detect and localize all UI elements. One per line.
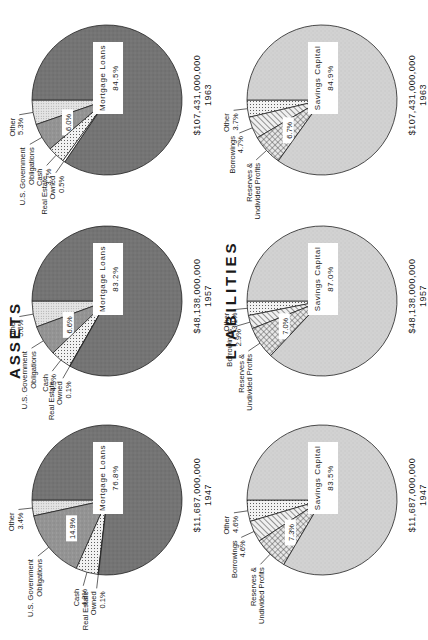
- callout-line: [32, 341, 44, 348]
- main-slice-value: 83.5%: [326, 465, 335, 491]
- main-slice-value: 87.0%: [326, 266, 335, 292]
- year-label: 1957: [418, 285, 428, 307]
- callout-line: [38, 547, 49, 556]
- slice-real_estate-callout: 0.5%: [57, 175, 66, 192]
- pie-assets-1963: Other5.3%6.0%U.S. GovernmentObligationsC…: [8, 25, 213, 215]
- rotated-page: ASSETS LIABILITIES Other3.4%14.9%U.S. Go…: [0, 0, 428, 640]
- main-slice-label: Mortgage Loans: [98, 246, 107, 312]
- slice-reserves-callout: Undivided Profits: [245, 354, 254, 411]
- slice-borrowings-callout: 4.7%: [236, 136, 245, 153]
- callout-line: [19, 112, 33, 114]
- slice-other-callout: 3.1%: [230, 312, 239, 329]
- slice-reserves-value: 7.3%: [287, 524, 296, 541]
- slice-usgo-callout: Obligations: [29, 351, 38, 389]
- callout-line: [234, 511, 248, 513]
- callout-line: [248, 343, 260, 351]
- slice-usgo-value: 6.6%: [65, 316, 74, 333]
- slice-real_estate-callout: 0.1%: [64, 381, 73, 398]
- slice-other-callout: 4.6%: [231, 516, 240, 533]
- callout-line: [63, 366, 70, 378]
- callout-line: [19, 508, 33, 509]
- slice-usgo-callout: Obligations: [35, 559, 44, 597]
- slice-borrowings-callout: 4.6%: [238, 540, 247, 557]
- total-amount: $48,138,000,000: [407, 258, 417, 333]
- slice-other-callout: 5.6%: [16, 319, 25, 336]
- pie-chart-figure: ASSETS LIABILITIES Other3.4%14.9%U.S. Go…: [0, 0, 428, 640]
- slice-other-callout: 5.3%: [16, 117, 25, 134]
- pie-liabilities-1963: Other3.7%Borrowings4.7%6.7%Reserves &Und…: [222, 25, 428, 220]
- year-label: 1947: [203, 484, 213, 506]
- callout-line: [52, 360, 61, 371]
- main-slice-value: 76.8%: [111, 465, 120, 491]
- pie-liabilities-1957: Other3.1%Borrowings2.9%7.0%Reserves &Und…: [222, 226, 428, 411]
- slice-borrowings-callout: 2.9%: [234, 329, 243, 346]
- main-slice-label: Mortgage Loans: [98, 45, 107, 111]
- callout-line: [256, 150, 266, 159]
- year-label: 1963: [418, 84, 428, 106]
- callout-line: [234, 109, 248, 111]
- main-slice-label: Savings Capital: [313, 46, 322, 111]
- callout-line: [83, 572, 87, 585]
- pie-groups: Other3.4%14.9%U.S. GovernmentObligations…: [7, 25, 428, 630]
- slice-real_estate-callout: 0.1%: [98, 591, 107, 608]
- total-amount: $107,431,000,000: [407, 55, 417, 136]
- slice-other-callout: 3.7%: [231, 113, 240, 130]
- slice-reserves-callout: Undivided Profits: [253, 163, 262, 220]
- callout-line: [30, 137, 42, 144]
- total-amount: $11,687,000,000: [192, 458, 202, 532]
- slice-usgo-value: 14.9%: [68, 517, 77, 539]
- callout-line: [241, 532, 254, 538]
- slice-reserves-callout: Undivided Profits: [257, 567, 266, 624]
- main-slice-value: 84.9%: [326, 65, 335, 91]
- total-amount: $107,431,000,000: [192, 55, 202, 136]
- callout-line: [97, 574, 99, 588]
- total-amount: $11,687,000,000: [407, 458, 417, 532]
- slice-usgo-value: 6.0%: [64, 114, 73, 131]
- year-label: 1947: [418, 484, 428, 506]
- main-slice-value: 84.5%: [111, 65, 120, 91]
- pie-liabilities-1947: Other4.6%Borrowings4.6%7.3%Reserves &Und…: [222, 425, 428, 624]
- slice-reserves-value: 6.7%: [285, 121, 294, 138]
- main-slice-value: 83.2%: [111, 266, 120, 292]
- year-label: 1963: [203, 84, 213, 106]
- slice-reserves-value: 7.0%: [281, 317, 290, 334]
- main-slice-label: Mortgage Loans: [98, 445, 107, 511]
- callout-line: [56, 161, 64, 172]
- callout-line: [47, 155, 56, 165]
- pie-assets-1947: Other3.4%14.9%U.S. GovernmentObligations…: [7, 425, 213, 630]
- pie-assets-1957: Other5.6%6.6%U.S. GovernmentObligationsC…: [8, 226, 213, 420]
- main-slice-label: Savings Capital: [313, 247, 322, 312]
- total-amount: $48,138,000,000: [192, 258, 202, 333]
- year-label: 1957: [203, 285, 213, 307]
- callout-line: [260, 554, 270, 564]
- slice-other-callout: 3.4%: [16, 512, 25, 529]
- main-slice-label: Savings Capital: [313, 446, 322, 511]
- callout-line: [239, 128, 252, 133]
